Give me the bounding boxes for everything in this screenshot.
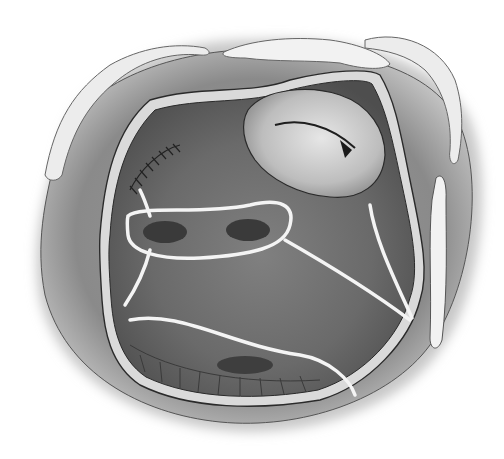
lower-orifice <box>217 356 273 374</box>
surgical-illustration <box>0 0 504 459</box>
orifice-left <box>143 221 187 243</box>
orifice-right <box>226 219 270 241</box>
